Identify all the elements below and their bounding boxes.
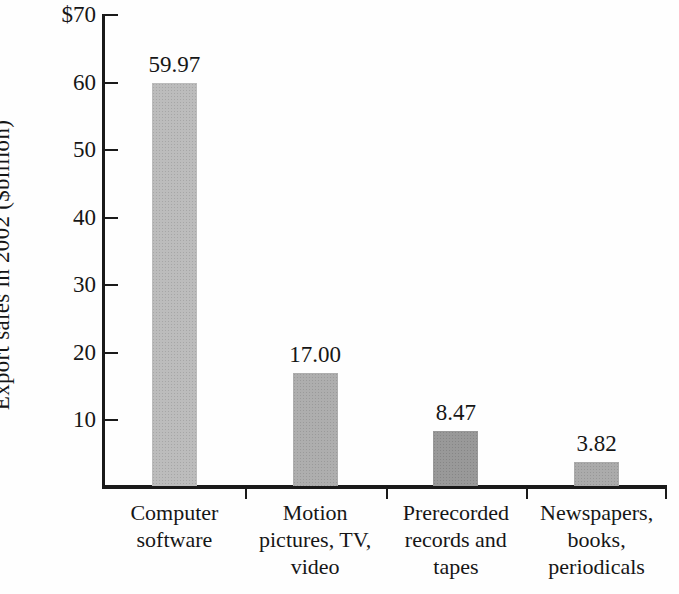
y-tick bbox=[105, 352, 118, 354]
bar-value-label: 17.00 bbox=[270, 342, 360, 368]
x-category-label: Newspapers,books,periodicals bbox=[515, 499, 679, 580]
x-category-label: Computersoftware bbox=[92, 499, 256, 553]
x-category-label: Motionpictures, TV,video bbox=[233, 499, 397, 580]
bar-value-label: 3.82 bbox=[552, 431, 642, 457]
y-tick bbox=[105, 419, 118, 421]
x-category-label: Prerecordedrecords andtapes bbox=[374, 499, 538, 580]
y-tick-label: 50 bbox=[34, 137, 96, 163]
y-tick bbox=[105, 217, 118, 219]
y-tick bbox=[105, 284, 118, 286]
y-tick-label: 10 bbox=[34, 407, 96, 433]
x-boundary-tick bbox=[665, 487, 667, 499]
y-tick-label: 30 bbox=[34, 272, 96, 298]
x-boundary-tick bbox=[386, 487, 388, 499]
bar bbox=[293, 373, 338, 486]
y-axis-line bbox=[102, 14, 105, 489]
y-tick-label: 60 bbox=[34, 70, 96, 96]
bar bbox=[433, 431, 478, 486]
y-tick bbox=[105, 82, 118, 84]
bar-value-label: 8.47 bbox=[411, 400, 501, 426]
y-tick-label: 40 bbox=[34, 205, 96, 231]
x-boundary-tick bbox=[245, 487, 247, 499]
bar-chart-figure: Export sales in 2002 ($billion) 10203040… bbox=[0, 0, 679, 594]
bar bbox=[574, 462, 619, 486]
y-tick bbox=[105, 14, 118, 16]
bar bbox=[152, 83, 197, 486]
y-tick-label: 20 bbox=[34, 340, 96, 366]
y-tick-label: $70 bbox=[34, 2, 96, 28]
y-tick bbox=[105, 149, 118, 151]
y-axis-title: Export sales in 2002 ($billion) bbox=[0, 65, 15, 465]
bar-value-label: 59.97 bbox=[129, 52, 219, 78]
x-boundary-tick bbox=[526, 487, 528, 499]
